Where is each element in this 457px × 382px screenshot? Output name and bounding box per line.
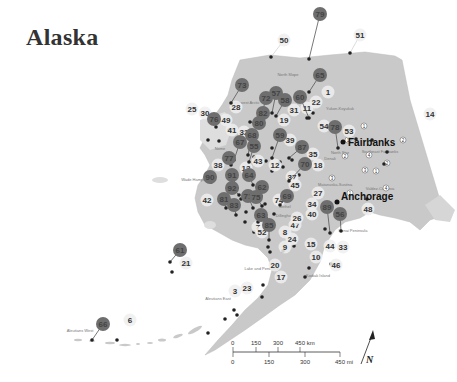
location-point <box>234 213 238 217</box>
scale-km-label: 450 km <box>295 340 315 346</box>
north-label: N <box>365 354 374 365</box>
location-point <box>267 238 271 242</box>
region-label: Aleutians West <box>67 328 94 333</box>
location-point <box>263 202 267 206</box>
light-marker-label: 43 <box>254 157 263 166</box>
location-point <box>247 160 251 164</box>
dark-marker-label: 62 <box>258 183 267 192</box>
dark-marker-label: 65 <box>316 71 325 80</box>
anchorage-dot <box>335 200 340 205</box>
location-point <box>206 331 210 335</box>
light-marker-label: 1 <box>326 88 331 97</box>
location-point <box>278 203 282 207</box>
dark-marker-label: 63 <box>257 211 266 220</box>
location-point <box>268 250 272 254</box>
location-point <box>246 153 250 157</box>
light-marker-label: 50 <box>280 36 289 45</box>
light-marker-label: 17 <box>277 273 286 282</box>
light-marker-label: 39 <box>286 136 295 145</box>
location-point <box>243 220 247 224</box>
dark-marker-label: 67 <box>236 138 245 147</box>
light-marker-label: 42 <box>203 196 212 205</box>
light-marker-label: 35 <box>309 150 318 159</box>
location-point <box>269 55 273 59</box>
light-marker-label: 25 <box>188 105 197 114</box>
dark-marker-label: 89 <box>323 203 332 212</box>
scale-mi-label: 150 <box>264 359 275 365</box>
location-point <box>251 206 255 210</box>
light-marker-label: 22 <box>312 98 321 107</box>
location-point <box>170 270 174 274</box>
location-point <box>385 150 389 154</box>
light-marker-label: 51 <box>356 31 365 40</box>
light-marker-label: 11 <box>303 104 312 113</box>
location-point <box>272 212 276 216</box>
region-label: Yukon-Koyukuk <box>326 106 354 111</box>
dark-marker-label: 56 <box>336 210 345 219</box>
location-point <box>323 227 327 231</box>
location-point <box>235 313 239 317</box>
scale-mi-label: 450 mi <box>335 359 353 365</box>
location-point <box>307 266 311 270</box>
location-point <box>266 245 270 249</box>
light-marker-label: 28 <box>232 103 241 112</box>
light-marker-label: 34 <box>308 200 317 209</box>
location-point <box>260 204 264 208</box>
dark-marker-label: 90 <box>206 173 215 182</box>
dark-marker-label: 75 <box>252 193 261 202</box>
dark-marker-label: 73 <box>238 81 247 90</box>
light-marker-label: 49 <box>222 116 231 125</box>
dark-marker-label: 80 <box>255 119 264 128</box>
city-label-fairbanks: Fairbanks <box>348 137 396 148</box>
region-label: Kodiak Island <box>306 273 330 278</box>
region-label: Kenai Peninsula <box>339 228 369 233</box>
location-point <box>307 57 311 61</box>
location-point <box>251 183 255 187</box>
location-point <box>303 275 307 279</box>
light-marker-label: 15 <box>307 240 316 249</box>
light-marker-label: 53 <box>345 127 354 136</box>
location-point <box>206 138 210 142</box>
light-marker-label: 31 <box>290 106 299 115</box>
light-marker-label: 3 <box>233 287 238 296</box>
scale-km-label: 0 <box>231 340 235 346</box>
dark-marker-label: 85 <box>265 221 274 230</box>
dark-marker-label: 66 <box>99 320 108 329</box>
dark-marker-label: 70 <box>301 160 310 169</box>
region-label: Nome <box>215 146 226 151</box>
dark-marker-label: 69 <box>283 192 292 201</box>
location-point <box>287 179 291 183</box>
light-marker-label: 18 <box>314 161 323 170</box>
nunivak-island <box>204 221 216 229</box>
north-arrow-head-icon <box>369 330 375 340</box>
dark-marker-label: 76 <box>210 115 219 124</box>
light-marker-label: 6 <box>128 316 133 325</box>
light-marker-label: 45 <box>291 181 300 190</box>
region-label: Matanuska-Susitna <box>318 182 353 187</box>
st-lawrence-island <box>152 177 168 183</box>
region-label: Aleutians East <box>205 296 231 301</box>
dark-marker-label: 83 <box>230 201 239 210</box>
location-point <box>328 231 332 235</box>
location-point <box>287 156 291 160</box>
location-point <box>260 295 264 299</box>
scale-km-label: 150 <box>251 340 262 346</box>
dark-marker-label: 59 <box>276 131 285 140</box>
dark-marker-label: 60 <box>296 93 305 102</box>
light-marker-label: 33 <box>339 243 348 252</box>
dark-marker-label: 68 <box>248 131 257 140</box>
location-point <box>232 308 236 312</box>
location-point <box>264 159 268 163</box>
dark-marker-label: 92 <box>228 184 237 193</box>
light-marker-label: 23 <box>243 284 252 293</box>
light-marker-label: 40 <box>308 210 317 219</box>
location-point <box>274 114 278 118</box>
light-marker-label: 19 <box>280 116 289 125</box>
light-marker-label: 12 <box>271 161 280 170</box>
dark-marker-label: 72 <box>262 94 271 103</box>
location-point <box>382 162 386 166</box>
location-point <box>339 229 343 233</box>
location-point <box>336 146 340 150</box>
light-marker-label: 44 <box>326 242 335 251</box>
dark-marker-label: 58 <box>281 96 290 105</box>
